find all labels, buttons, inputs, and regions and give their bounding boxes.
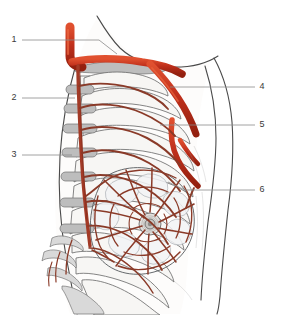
anatomy-illustration: 1 2 3 4 5 (0, 0, 281, 315)
anatomy-figure: 1 2 3 4 5 (0, 0, 281, 315)
arm-outer-contour (214, 58, 233, 314)
rib-shade-6 (60, 198, 95, 207)
shade-line-3 (196, 196, 198, 248)
label-number-6: 6 (259, 184, 264, 194)
arm-inner-contour (201, 66, 216, 300)
label-number-3: 3 (11, 149, 16, 159)
label-number-2: 2 (11, 92, 16, 102)
label-number-1: 1 (11, 34, 16, 44)
callout-2[interactable]: 2 (11, 92, 75, 102)
label-number-4: 4 (259, 81, 264, 91)
shade-line-4 (202, 192, 204, 250)
label-number-5: 5 (259, 119, 264, 129)
